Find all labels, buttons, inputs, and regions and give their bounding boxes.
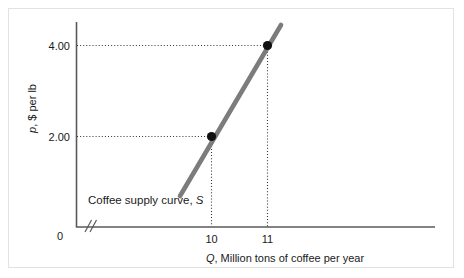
y-axis-title-rest: , $ per lb [26, 84, 38, 127]
x-tick-label-10: 10 [205, 233, 217, 245]
supply-curve-line [180, 25, 281, 196]
supply-curve-annotation: Coffee supply curve, S [88, 194, 204, 206]
axis-break-icon [85, 220, 97, 232]
data-point-10-2 [207, 132, 216, 141]
y-axis-title: p, $ per lb [26, 84, 38, 134]
x-axis-title: Q, Million tons of coffee per year [206, 252, 364, 264]
figure-container: 4.00 2.00 0 10 11 p, $ per lb Q, Million… [0, 0, 464, 278]
y-tick-label-4: 4.00 [49, 40, 70, 52]
supply-curve-annotation-variable: S [196, 194, 204, 206]
x-tick-label-11: 11 [262, 233, 273, 245]
supply-curve-annotation-text: Coffee supply curve, [88, 194, 196, 206]
x-axis-title-rest: , Million tons of coffee per year [214, 252, 364, 264]
origin-label: 0 [57, 230, 63, 242]
data-point-11-4 [263, 41, 272, 50]
y-tick-label-2: 2.00 [49, 131, 70, 143]
supply-curve-chart: 4.00 2.00 0 10 11 p, $ per lb Q, Million… [0, 0, 464, 278]
y-axis-title-variable: p [26, 127, 38, 134]
